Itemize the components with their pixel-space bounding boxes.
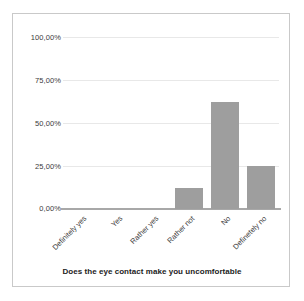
x-axis-title: Does the eye contact make you uncomforta… — [13, 267, 291, 276]
bar-slot — [207, 37, 243, 209]
plot-area — [63, 37, 279, 209]
bar-slot — [171, 37, 207, 209]
bar-slot — [63, 37, 99, 209]
y-axis-tick-label: 75,00% — [9, 76, 61, 85]
y-axis-tick-label: 100,00% — [9, 33, 61, 42]
y-axis-tick-label: 50,00% — [9, 119, 61, 128]
bar-slot — [135, 37, 171, 209]
y-axis-tick-label: 0,00% — [9, 204, 61, 213]
y-axis-tick-label: 25,00% — [9, 162, 61, 171]
bar-no — [211, 102, 239, 210]
bar-slot — [99, 37, 135, 209]
bar-series — [63, 37, 279, 209]
chart-frame: 100,00% 75,00% 50,00% 25,00% 0,00% — [12, 13, 290, 287]
bar-rather-not — [175, 188, 203, 210]
bar-definitely-no — [247, 166, 275, 209]
bar-slot — [243, 37, 279, 209]
